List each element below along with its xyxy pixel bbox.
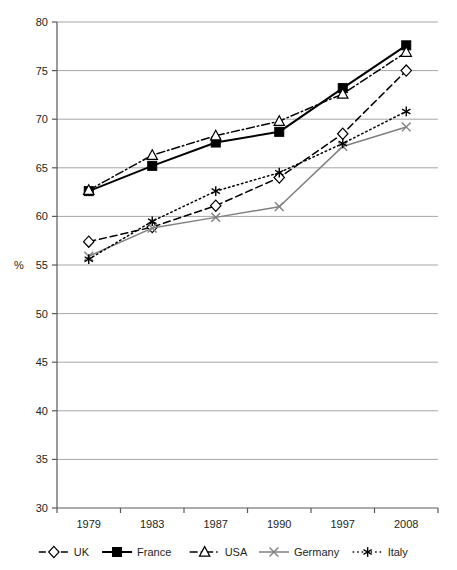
- chart-background: [0, 0, 457, 570]
- x-tick-label: 1983: [140, 518, 164, 530]
- line-chart: 3035404550556065707580 % 197919831987199…: [0, 0, 457, 570]
- x-tick-label: 2008: [394, 518, 418, 530]
- x-tick-label: 1979: [77, 518, 101, 530]
- marker-france: [148, 161, 157, 170]
- y-axis-unit-label: %: [14, 259, 24, 271]
- square-marker: [113, 548, 122, 557]
- square-marker: [148, 161, 157, 170]
- marker-france: [275, 127, 284, 136]
- y-tick-label: 60: [36, 210, 48, 222]
- y-tick-label: 70: [36, 113, 48, 125]
- y-tick-label: 40: [36, 405, 48, 417]
- square-marker: [275, 127, 284, 136]
- y-tick-label: 45: [36, 356, 48, 368]
- legend-item-france[interactable]: France: [102, 546, 171, 558]
- y-tick-label: 50: [36, 308, 48, 320]
- y-tick-label: 55: [36, 259, 48, 271]
- y-tick-label: 30: [36, 502, 48, 514]
- y-tick-label: 65: [36, 162, 48, 174]
- marker-france: [113, 548, 122, 557]
- x-tick-label: 1990: [267, 518, 291, 530]
- legend-label-france: France: [137, 546, 171, 558]
- legend-label-usa: USA: [225, 546, 248, 558]
- x-tick-label: 1987: [204, 518, 228, 530]
- legend-label-italy: Italy: [388, 546, 409, 558]
- y-tick-label: 75: [36, 65, 48, 77]
- chart-canvas: 3035404550556065707580 % 197919831987199…: [0, 0, 457, 570]
- y-tick-label: 35: [36, 453, 48, 465]
- y-tick-label: 80: [36, 16, 48, 28]
- legend-label-germany: Germany: [294, 546, 340, 558]
- x-tick-label: 1997: [331, 518, 355, 530]
- legend-label-uk: UK: [74, 546, 90, 558]
